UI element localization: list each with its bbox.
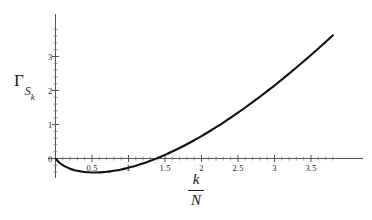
- x-tick-label: 2: [199, 163, 203, 173]
- data-curve: [56, 35, 333, 172]
- fraction-bar-icon: [188, 190, 204, 191]
- x-tick-label: 0.5: [86, 163, 97, 173]
- x-tick-label: 1.5: [159, 163, 170, 173]
- axis-lines: [48, 14, 363, 178]
- x-tick-label: 3: [272, 163, 276, 173]
- chart-figure: ΓSk k N 0.511.522.533.5 0123: [0, 0, 372, 220]
- y-axis-label-gamma: Γ: [14, 71, 24, 90]
- x-tick-label: 1: [126, 163, 130, 173]
- y-tick-label: 3: [44, 52, 53, 62]
- y-tick-label: 2: [44, 86, 53, 96]
- x-tick-label: 3.5: [305, 163, 316, 173]
- plot-canvas: [0, 0, 372, 220]
- x-axis-label: k N: [188, 172, 204, 209]
- x-axis-label-denominator: N: [188, 192, 204, 209]
- y-tick-label: 1: [44, 120, 53, 130]
- y-axis-label: ΓSk: [14, 72, 34, 89]
- x-axis-label-numerator: k: [188, 172, 204, 189]
- y-tick-label: 0: [44, 154, 53, 164]
- y-axis-label-subscript-k: k: [31, 93, 35, 102]
- x-tick-label: 2.5: [232, 163, 243, 173]
